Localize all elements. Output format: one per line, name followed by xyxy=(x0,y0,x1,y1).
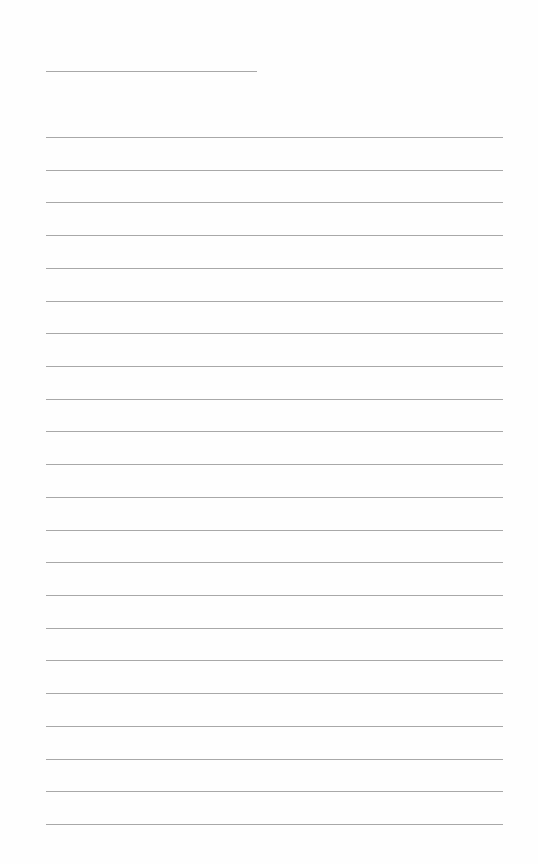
ruled-line xyxy=(46,333,503,334)
ruled-line xyxy=(46,202,503,203)
ruled-line xyxy=(46,497,503,498)
ruled-line xyxy=(46,628,503,629)
ruled-line xyxy=(46,791,503,792)
ruled-line xyxy=(46,660,503,661)
ruled-line xyxy=(46,399,503,400)
ruled-line xyxy=(46,726,503,727)
ruled-line xyxy=(46,268,503,269)
ruled-line xyxy=(46,693,503,694)
title-line xyxy=(46,71,257,72)
lined-paper-page xyxy=(0,0,538,864)
ruled-line xyxy=(46,562,503,563)
ruled-line xyxy=(46,170,503,171)
ruled-line xyxy=(46,530,503,531)
ruled-line xyxy=(46,301,503,302)
ruled-line xyxy=(46,431,503,432)
ruled-line xyxy=(46,759,503,760)
ruled-line xyxy=(46,137,503,138)
ruled-line xyxy=(46,595,503,596)
ruled-line xyxy=(46,824,503,825)
ruled-line xyxy=(46,366,503,367)
ruled-line xyxy=(46,235,503,236)
ruled-line xyxy=(46,464,503,465)
